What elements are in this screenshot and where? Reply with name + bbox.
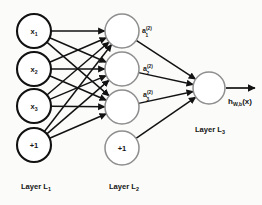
edges-input-to-hidden xyxy=(44,31,111,138)
neuron-label-b2: +1 xyxy=(118,144,127,153)
neuron-o1 xyxy=(193,72,225,104)
activation-labels-group: a(2)1a(2)2a(2)3 xyxy=(142,26,153,103)
layer-label-L1: Layer L1 xyxy=(21,182,51,192)
output-label-group: hW,b(x) xyxy=(228,97,252,107)
activation-label-a1: a(2)1 xyxy=(142,26,152,39)
neuron-h3 xyxy=(105,90,139,124)
network-svg: x1x2x3+1+1 a(2)1a(2)2a(2)3 Layer L1Layer… xyxy=(0,0,262,205)
edges-hidden-to-output xyxy=(136,40,196,138)
layer-label-L2: Layer L2 xyxy=(109,182,139,192)
nodes-group: x1x2x3+1+1 xyxy=(17,14,225,165)
connection-line xyxy=(50,114,107,139)
neuron-h2 xyxy=(105,52,139,86)
neural-network-diagram: x1x2x3+1+1 a(2)1a(2)2a(2)3 Layer L1Layer… xyxy=(0,0,262,205)
connection-line xyxy=(136,97,196,138)
layer-label-L3: Layer L3 xyxy=(195,125,225,135)
neuron-label-b1: +1 xyxy=(30,141,39,150)
neuron-h1 xyxy=(105,14,139,48)
output-label-hypothesis: hW,b(x) xyxy=(228,97,252,107)
